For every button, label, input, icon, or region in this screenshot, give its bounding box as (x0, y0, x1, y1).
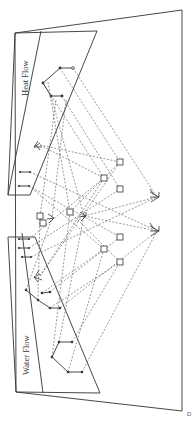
heat-flow-plane-divider (8, 31, 41, 195)
corner-mark: D (187, 411, 192, 417)
fork-nodes (47, 189, 159, 236)
heat-flow-plane (8, 31, 97, 195)
water-flow-label: Water Flow (21, 334, 31, 375)
diagram-figure: Heat Flow Water Flow (0, 0, 194, 421)
heat-flow-label: Heat Flow (20, 59, 30, 96)
outer-frame (15, 10, 182, 411)
